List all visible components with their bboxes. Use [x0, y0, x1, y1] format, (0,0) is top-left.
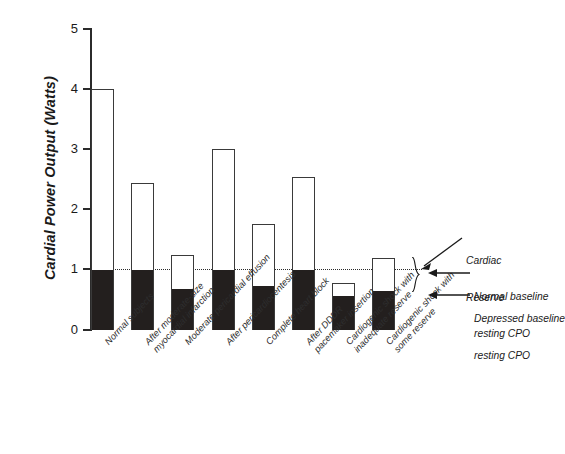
cardiac-reserve-brace: [411, 257, 420, 292]
callout-depressed-baseline-line2: resting CPO: [474, 350, 565, 362]
callout-depressed-baseline: Depressed baseline resting CPO: [474, 288, 565, 387]
callout-depressed-baseline-line1: Depressed baseline: [474, 313, 565, 325]
chart-figure: Cardial Power Output (Watts) 5 4 3 2 1 0…: [0, 0, 565, 454]
